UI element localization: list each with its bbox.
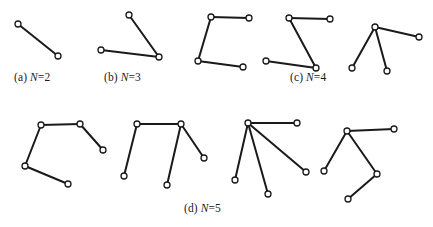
graph-d-2 (121, 121, 207, 188)
graph-d-1 (22, 121, 106, 187)
graph-d-4 (321, 126, 397, 202)
graph-c-3-node-0 (372, 24, 378, 30)
graph-d-3-edge-3 (235, 123, 248, 180)
graph-canvas (0, 0, 433, 227)
caption-a-prefix: (a) (14, 71, 30, 83)
graph-d-3 (232, 120, 309, 197)
graph-b-1-node-1 (156, 54, 162, 60)
caption-c-prefix: (c) (290, 71, 306, 83)
graph-d-4-node-0 (344, 128, 350, 134)
graph-c-3 (349, 24, 422, 74)
graph-b-1-edge-1 (101, 50, 159, 57)
graph-d-2-edge-2 (167, 124, 181, 185)
graph-d-1-node-4 (65, 181, 71, 187)
graph-c-3-edge-0 (375, 27, 419, 37)
graph-d-4-edge-0 (347, 129, 394, 131)
graph-c-1-edge-2 (198, 61, 243, 67)
caption-b-value: =3 (128, 71, 140, 83)
graph-d-2-node-2 (178, 121, 184, 127)
graph-c-2-node-1 (286, 15, 292, 21)
graph-d-4-edge-2 (347, 131, 377, 174)
graph-d-1-edge-1 (41, 124, 80, 125)
figure-container: (a) N=2 (b) N=3 (c) N=4 (d) N=5 (0, 0, 433, 227)
graph-c-2-node-3 (263, 58, 269, 64)
graph-d-1-node-2 (38, 122, 44, 128)
caption-c-value: =4 (314, 71, 326, 83)
graph-c-2-edge-2 (266, 61, 316, 68)
graph-c-1-edge-1 (198, 17, 211, 61)
graph-c-1-node-0 (246, 15, 252, 21)
graph-b-1-node-2 (98, 47, 104, 53)
graph-b-1-edge-0 (129, 15, 159, 57)
caption-b-prefix: (b) (104, 71, 121, 83)
graph-b-1 (98, 12, 162, 60)
caption-a-value: =2 (38, 71, 50, 83)
graph-a-1-edge-0 (18, 24, 58, 56)
caption-d: (d) N=5 (184, 202, 221, 214)
graph-d-4-edge-3 (348, 174, 377, 199)
graph-c-1-node-1 (208, 14, 214, 20)
graph-d-3-node-4 (232, 177, 238, 183)
graph-d-3-edge-1 (248, 123, 306, 172)
graph-d-3-node-3 (265, 191, 271, 197)
graph-d-2-node-4 (201, 155, 207, 161)
graph-a-1-node-1 (55, 53, 61, 59)
graph-c-1-node-3 (240, 64, 246, 70)
graph-b-1-node-0 (126, 12, 132, 18)
graph-d-1-edge-2 (25, 125, 41, 166)
graph-d-1-edge-0 (80, 124, 103, 150)
graph-d-4-node-4 (345, 196, 351, 202)
graph-d-3-node-2 (303, 169, 309, 175)
graph-c-1-edge-0 (211, 17, 249, 18)
graph-d-1-node-0 (100, 147, 106, 153)
caption-c-symbol: N (306, 71, 314, 83)
graph-a-1-node-0 (15, 21, 21, 27)
graph-c-1 (195, 14, 252, 70)
graph-c-2-node-0 (327, 16, 333, 22)
caption-b: (b) N=3 (104, 71, 141, 83)
graph-d-3-edge-2 (248, 123, 268, 194)
caption-d-prefix: (d) (184, 202, 201, 214)
graph-d-1-node-1 (77, 121, 83, 127)
graph-d-2-edge-3 (181, 124, 204, 158)
graph-c-3-node-2 (349, 65, 355, 71)
caption-a-symbol: N (30, 71, 38, 83)
graph-c-1-node-2 (195, 58, 201, 64)
graph-d-1-node-3 (22, 163, 28, 169)
graph-c-3-node-3 (384, 68, 390, 74)
graph-d-3-node-1 (294, 120, 300, 126)
graph-d-4-node-2 (321, 168, 327, 174)
graph-d-4-node-1 (391, 126, 397, 132)
graph-d-2-node-0 (121, 173, 127, 179)
caption-a: (a) N=2 (14, 71, 50, 83)
graph-c-2-edge-0 (289, 18, 330, 19)
graph-c-3-edge-2 (375, 27, 387, 71)
graph-d-2-node-3 (164, 182, 170, 188)
graph-d-2-edge-0 (124, 124, 137, 176)
graph-d-4-node-3 (374, 171, 380, 177)
caption-c: (c) N=4 (290, 71, 326, 83)
graph-d-1-edge-3 (25, 166, 68, 184)
graph-a-1 (15, 21, 61, 59)
graph-c-2-edge-1 (289, 18, 316, 68)
graph-c-3-node-1 (416, 34, 422, 40)
graph-c-2 (263, 15, 333, 71)
caption-d-value: =5 (208, 202, 220, 214)
graph-d-3-node-0 (245, 120, 251, 126)
graph-d-2-node-1 (134, 121, 140, 127)
graph-c-3-edge-1 (352, 27, 375, 68)
graph-d-4-edge-1 (324, 131, 347, 171)
